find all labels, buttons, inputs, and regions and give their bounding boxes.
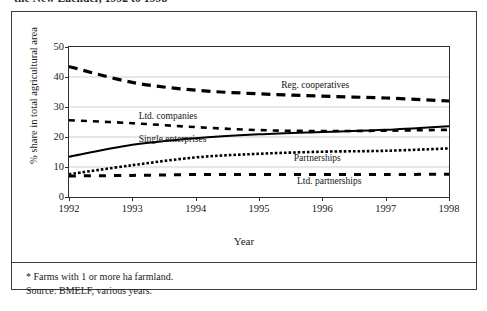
series-label-ltd-companies: Ltd. companies [139,111,198,121]
x-tick-label: 1994 [185,203,206,214]
y-tick-mark [65,77,69,78]
series-line-single-enterprises [69,126,449,157]
chart-area: % share in total agricultural area 01020… [12,12,476,262]
footnote-block: * Farms with 1 or more ha farmland. Sour… [26,270,173,298]
x-tick-mark [449,197,450,201]
series-label-single-enterprises: Single enterprises [139,134,207,144]
x-tick-label: 1992 [59,203,80,214]
series-label-partnerships: Partnerships [294,153,341,163]
x-tick-mark [322,197,323,201]
y-tick-mark [65,47,69,48]
series-line-partnerships [69,148,449,174]
series-label-reg-cooperatives: Reg. cooperatives [281,80,349,90]
x-tick-mark [196,197,197,201]
y-tick-mark [65,137,69,138]
x-tick-label: 1995 [249,203,270,214]
x-tick-label: 1998 [439,203,460,214]
y-tick-label: 10 [54,162,65,173]
y-tick-label: 40 [54,72,65,83]
plot-frame: 010203040501992199319941995199619971998R… [68,46,450,198]
footnote-note: * Farms with 1 or more ha farmland. [26,270,173,284]
x-tick-label: 1996 [312,203,333,214]
clipped-caption: the New Laender, 1992 to 1998 [14,0,314,4]
chart-svg [69,47,449,197]
series-line-ltd-partnerships [69,174,449,176]
y-tick-label: 30 [54,102,65,113]
x-tick-mark [386,197,387,201]
y-axis-label: % share in total agricultural area [28,11,39,181]
footnote-divider [12,262,476,263]
x-tick-label: 1993 [122,203,143,214]
y-tick-label: 20 [54,132,65,143]
footnote-source: Source: BMELF, various years. [26,284,173,298]
x-tick-label: 1997 [375,203,396,214]
x-tick-mark [69,197,70,201]
x-axis-label: Year [12,235,476,247]
figure-container: % share in total agricultural area 01020… [11,11,477,290]
x-tick-mark [259,197,260,201]
x-tick-mark [132,197,133,201]
y-tick-mark [65,107,69,108]
series-label-ltd-partnerships: Ltd. partnerships [297,176,361,186]
y-tick-label: 50 [54,42,65,53]
y-tick-mark [65,167,69,168]
series-line-reg-cooperatives [69,67,449,102]
y-tick-label: 0 [59,192,64,203]
